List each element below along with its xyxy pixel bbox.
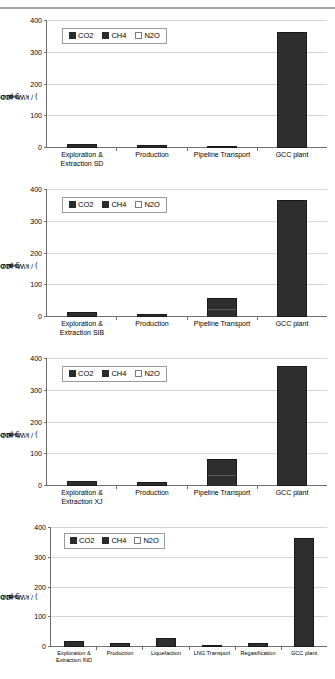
- table-row: [294, 538, 313, 647]
- x-tick-label: Production: [117, 486, 187, 518]
- x-tick-label: Liquefaction: [143, 647, 189, 673]
- open-square-icon: [135, 370, 142, 377]
- legend-label: CH4: [111, 536, 126, 545]
- y-tick-label: 300: [30, 386, 42, 393]
- legend-item-ch4: CH4: [102, 536, 126, 545]
- table-row: [277, 32, 308, 148]
- table-row: [67, 144, 98, 148]
- legend: CO2 CH4 N2O: [62, 197, 167, 213]
- legend-item-ch4: CH4: [102, 369, 126, 378]
- y-axis-title: g (CO2-equiv.) / kWh at busbar: [0, 183, 20, 349]
- x-tick-label: Production: [97, 647, 143, 673]
- x-axis-labels: Exploration & Extraction IND Production …: [51, 647, 327, 673]
- legend-label: CH4: [111, 369, 126, 378]
- legend-item-n2o: N2O: [135, 200, 159, 209]
- y-tick-label: 400: [30, 186, 42, 193]
- y-tick-label: 0: [42, 643, 46, 650]
- legend-label: CO2: [78, 31, 93, 40]
- table-row: [67, 312, 98, 317]
- legend-item-ch4: CH4: [102, 31, 126, 40]
- filled-square-icon: [102, 32, 109, 39]
- y-tick-label: 0: [38, 313, 42, 320]
- x-tick-label: Production: [117, 148, 187, 180]
- x-tick-label: Exploration & Extraction SIB: [47, 317, 117, 349]
- x-axis-labels: Exploration & Extraction XJ Production P…: [47, 486, 327, 518]
- chart-sib: g (CO2-equiv.) / kWh at busbar 010020030…: [0, 183, 335, 349]
- x-tick-label: Pipeline Transport: [187, 317, 257, 349]
- y-axis-title: g (CO2-equiv.) / kWh at busbar: [0, 352, 20, 518]
- table-row: [202, 645, 221, 647]
- table-row: [137, 314, 168, 317]
- y-tick-label: 200: [34, 583, 46, 590]
- bar-slot: [187, 189, 257, 317]
- table-row: [137, 482, 168, 486]
- bar-segment-co2: [208, 309, 237, 317]
- legend-label: N2O: [144, 369, 159, 378]
- table-row: [110, 643, 129, 647]
- chart-xj: g (CO2-equiv.) / kWh at busbar 010020030…: [0, 352, 335, 518]
- y-tick-label: 200: [30, 249, 42, 256]
- filled-square-icon: [102, 537, 109, 544]
- legend-label: CO2: [78, 369, 93, 378]
- legend-item-ch4: CH4: [102, 200, 126, 209]
- legend-label: CH4: [111, 200, 126, 209]
- y-tick-label: 400: [30, 17, 42, 24]
- y-axis-title: g (CO2-equiv.) / kWh at busbar: [0, 14, 20, 180]
- legend: CO2 CH4 N2O: [62, 366, 167, 382]
- y-tick-label: 400: [34, 524, 46, 531]
- x-tick-label: GCC plant: [257, 317, 327, 349]
- filled-square-icon: [102, 201, 109, 208]
- filled-square-icon: [69, 32, 76, 39]
- scan-artifact-line: [0, 7, 335, 9]
- y-tick-label: 400: [30, 355, 42, 362]
- x-tick-label: Production: [117, 317, 187, 349]
- bar-slot: [187, 20, 257, 148]
- x-tick-label: Exploration & Extraction XJ: [47, 486, 117, 518]
- bar-slot: [235, 527, 281, 647]
- bar-slot: [257, 358, 327, 486]
- filled-square-icon: [69, 201, 76, 208]
- x-tick-label: Regasification: [235, 647, 281, 673]
- x-tick-label: LNG Transport: [189, 647, 235, 673]
- table-row: [248, 643, 267, 647]
- bar-slot: [281, 527, 327, 647]
- bar-slot: [189, 527, 235, 647]
- x-tick-label: Exploration & Extraction IND: [51, 647, 97, 673]
- plot-area: 0100200300400 CO2 CH4 N2O Exploration & …: [46, 358, 327, 518]
- y-tick-label: 200: [30, 418, 42, 425]
- y-tick-label: 100: [30, 450, 42, 457]
- x-tick-label: GCC plant: [257, 486, 327, 518]
- legend-item-co2: CO2: [69, 369, 93, 378]
- legend: CO2 CH4 N2O: [62, 28, 167, 44]
- legend-label: CH4: [111, 31, 126, 40]
- x-tick-label: Exploration & Extraction SD: [47, 148, 117, 180]
- legend-item-n2o: N2O: [135, 369, 159, 378]
- x-axis-labels: Exploration & Extraction SIB Production …: [47, 317, 327, 349]
- table-row: [64, 641, 83, 647]
- legend-item-co2: CO2: [69, 200, 93, 209]
- table-row: [67, 481, 98, 486]
- y-tick-label: 300: [30, 48, 42, 55]
- y-tick-label: 200: [30, 80, 42, 87]
- legend-item-co2: CO2: [69, 31, 93, 40]
- x-tick-label: Pipeline Transport: [187, 148, 257, 180]
- plot-area: 0100200300400 CO2 CH4 N2O Exploration & …: [46, 20, 327, 180]
- bar-segment-ch4: [208, 460, 237, 474]
- y-tick-label: 100: [30, 112, 42, 119]
- table-row: [207, 146, 238, 148]
- y-tick-label: 300: [34, 553, 46, 560]
- chart-sd: g (CO2-equiv.) / kWh at busbar 010020030…: [0, 14, 335, 180]
- x-tick-label: GCC plant: [257, 148, 327, 180]
- open-square-icon: [135, 32, 142, 39]
- table-row: [156, 638, 175, 647]
- filled-square-icon: [102, 370, 109, 377]
- y-tick-label: 300: [30, 217, 42, 224]
- figure-page: g (CO2-equiv.) / kWh at busbar 010020030…: [0, 0, 335, 679]
- filled-square-icon: [69, 370, 76, 377]
- legend-label: CO2: [78, 200, 93, 209]
- y-tick-label: 0: [38, 144, 42, 151]
- y-axis-title: g (CO2-equiv.) / kWh at busbar: [0, 521, 20, 673]
- open-square-icon: [135, 201, 142, 208]
- plot-area: 0100200300400 CO2 CH4 N2O Exploration & …: [46, 189, 327, 349]
- legend-label: N2O: [144, 200, 159, 209]
